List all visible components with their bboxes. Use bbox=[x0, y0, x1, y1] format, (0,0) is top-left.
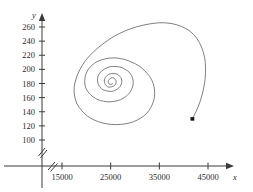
x-tick-label: 25000 bbox=[100, 172, 121, 182]
trajectory-curve bbox=[74, 23, 206, 125]
y-axis-arrow-icon bbox=[39, 13, 45, 21]
y-tick-label: 140 bbox=[22, 107, 35, 117]
y-tick-label: 160 bbox=[22, 93, 35, 103]
x-tick-label: 45000 bbox=[197, 172, 218, 182]
y-tick-label: 120 bbox=[22, 121, 35, 131]
start-point-marker bbox=[191, 117, 194, 120]
x-tick-label: 35000 bbox=[149, 172, 170, 182]
y-tick-label: 260 bbox=[22, 22, 35, 32]
y-tick-label: 200 bbox=[22, 64, 35, 74]
y-tick-label: 220 bbox=[22, 50, 35, 60]
spiral-phase-portrait-figure: 100120140160180200220240260 150002500035… bbox=[0, 0, 253, 192]
y-tick-label: 180 bbox=[22, 79, 35, 89]
x-axis-break-mark bbox=[48, 162, 58, 172]
x-axis-tick-labels: 15000250003500045000 bbox=[51, 172, 218, 182]
x-tick-label: 15000 bbox=[51, 172, 72, 182]
x-axis-label: x bbox=[232, 172, 237, 182]
y-tick-label: 100 bbox=[22, 135, 35, 145]
x-axis-arrow-icon bbox=[226, 163, 234, 169]
y-axis-break-mark bbox=[39, 148, 48, 158]
y-tick-label: 240 bbox=[22, 36, 35, 46]
y-axis-tick-labels: 100120140160180200220240260 bbox=[22, 22, 35, 145]
y-axis-label: y bbox=[31, 10, 36, 20]
plot-canvas: 100120140160180200220240260 150002500035… bbox=[0, 0, 253, 192]
